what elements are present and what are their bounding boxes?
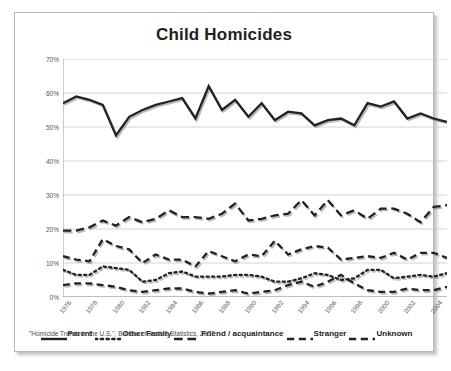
series-line-stranger bbox=[63, 239, 447, 266]
x-tick-label: 1976 bbox=[58, 299, 72, 315]
source-footnote: "Homicide Trends in the U.S.", Bureau of… bbox=[29, 330, 214, 337]
legend-label: Stranger bbox=[314, 329, 347, 338]
y-tick-label: 20% bbox=[33, 226, 59, 233]
x-tick-label: 1984 bbox=[164, 299, 178, 315]
x-tick-label: 1996 bbox=[323, 299, 337, 315]
y-tick-label: 30% bbox=[33, 192, 59, 199]
x-tick-label: 1998 bbox=[349, 299, 363, 315]
plot-svg bbox=[63, 59, 447, 297]
series-shadow bbox=[64, 88, 447, 137]
legend-swatch-icon bbox=[287, 329, 313, 338]
y-tick-label: 10% bbox=[33, 260, 59, 267]
chart-title: Child Homicides bbox=[15, 25, 433, 45]
series-line-parent bbox=[63, 86, 447, 135]
x-tick-label: 1992 bbox=[270, 299, 284, 315]
x-tick-label: 1988 bbox=[217, 299, 231, 315]
legend-swatch-icon bbox=[349, 329, 375, 338]
x-tick-label: 1990 bbox=[243, 299, 257, 315]
y-tick-label: 40% bbox=[33, 158, 59, 165]
plot-area bbox=[63, 59, 447, 297]
series-line-other-family bbox=[63, 266, 447, 281]
x-tick-label: 2000 bbox=[376, 299, 390, 315]
y-tick-label: 70% bbox=[33, 56, 59, 63]
y-tick-label: 0% bbox=[33, 294, 59, 301]
x-tick-label: 2004 bbox=[429, 299, 443, 315]
x-tick-label: 1978 bbox=[85, 299, 99, 315]
x-axis: 1976197819801982198419861988199019921994… bbox=[63, 299, 447, 333]
x-tick-label: 1986 bbox=[190, 299, 204, 315]
y-axis: 0%10%20%30%40%50%60%70% bbox=[29, 59, 59, 297]
x-tick-label: 2002 bbox=[402, 299, 416, 315]
y-tick-label: 60% bbox=[33, 90, 59, 97]
x-tick-label: 1994 bbox=[296, 299, 310, 315]
y-tick-label: 50% bbox=[33, 124, 59, 131]
series-shadow bbox=[64, 202, 447, 233]
x-tick-label: 1980 bbox=[111, 299, 125, 315]
legend-label: Unknown bbox=[376, 329, 412, 338]
x-tick-label: 1982 bbox=[138, 299, 152, 315]
legend-item[interactable]: Unknown bbox=[346, 329, 412, 338]
chart-figure-frame: Child Homicides 0%10%20%30%40%50%60%70% … bbox=[14, 12, 434, 352]
legend-item[interactable]: Stranger bbox=[284, 329, 347, 338]
